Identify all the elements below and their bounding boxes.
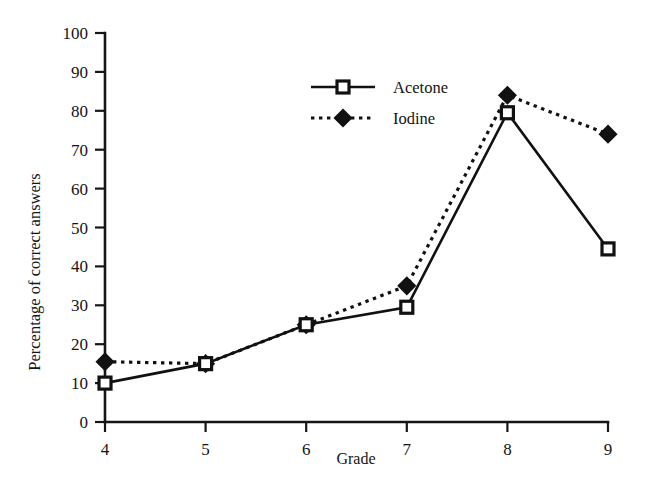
legend-label-acetone: Acetone [393, 78, 448, 97]
y-tick-label: 60 [71, 180, 88, 199]
y-tick-label: 100 [63, 24, 89, 43]
legend-label-iodine: Iodine [393, 109, 435, 128]
y-tick-label: 30 [71, 296, 88, 315]
data-point-acetone [300, 319, 312, 331]
y-tick-label: 40 [71, 257, 88, 276]
data-point-acetone [99, 377, 111, 389]
x-tick-label: 5 [201, 440, 210, 459]
y-tick-label: 10 [71, 374, 88, 393]
x-tick-label: 9 [604, 440, 613, 459]
x-tick-label: 6 [302, 440, 311, 459]
y-tick-label: 90 [71, 63, 88, 82]
x-axis-title: Grade [336, 450, 375, 467]
data-point-acetone [200, 358, 212, 370]
x-tick-label: 4 [101, 440, 110, 459]
line-chart: 100 90 80 70 60 50 40 30 20 10 0 [0, 0, 651, 489]
chart-background [0, 0, 651, 489]
x-tick-label: 7 [403, 440, 412, 459]
chart-svg: 100 90 80 70 60 50 40 30 20 10 0 [0, 0, 651, 489]
y-axis-title: Percentage of correct answers [25, 173, 44, 370]
y-tick-label: 80 [71, 102, 88, 121]
y-tick-label: 0 [80, 413, 89, 432]
x-tick-label: 8 [503, 440, 512, 459]
data-point-acetone [602, 243, 614, 255]
y-tick-label: 70 [71, 141, 88, 160]
y-tick-label: 50 [71, 219, 88, 238]
y-tick-label: 20 [71, 335, 88, 354]
data-point-acetone [401, 301, 413, 313]
legend-marker-open-square [337, 81, 349, 93]
data-point-acetone [501, 107, 513, 119]
